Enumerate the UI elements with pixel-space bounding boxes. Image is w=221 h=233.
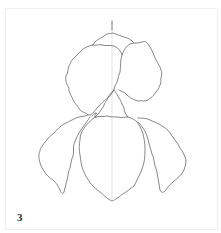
iris-drawing	[0, 0, 221, 233]
left-standard-petal	[66, 45, 122, 115]
top-standard-petal	[93, 33, 134, 45]
step-number: 3	[17, 211, 23, 223]
right-standard-petal	[119, 41, 162, 101]
left-fall-petal	[39, 115, 90, 193]
